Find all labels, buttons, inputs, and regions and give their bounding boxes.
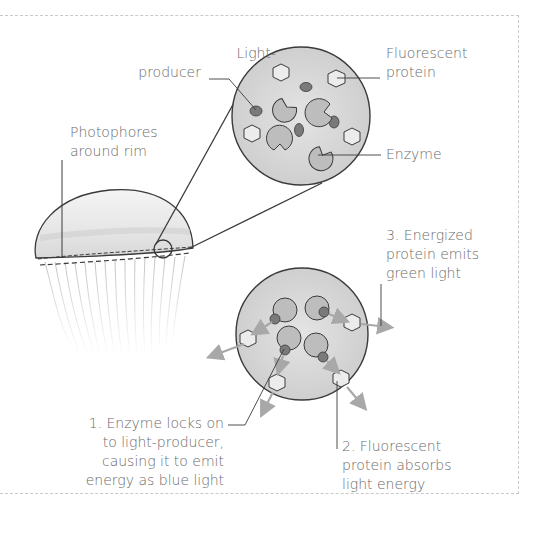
- label-line: to light-producer,: [40, 433, 224, 452]
- label-line: 2. Fluorescent: [342, 437, 451, 456]
- label-line: Fluorescent: [386, 44, 467, 63]
- label-step-3: 3. Energized protein emits green light: [386, 226, 479, 283]
- label-line: green light: [386, 264, 479, 283]
- label-line: Light-: [198, 44, 276, 63]
- label-line: producer: [123, 63, 201, 82]
- label-line: light energy: [342, 475, 451, 494]
- jellyfish-tentacles: [45, 256, 185, 355]
- label-line: protein absorbs: [342, 456, 451, 475]
- label-line: Photophores: [70, 123, 158, 142]
- label-step-1: 1. Enzyme locks on to light-producer, ca…: [40, 414, 224, 490]
- label-line: causing it to emit: [40, 452, 224, 471]
- label-line: 3. Energized: [386, 226, 479, 245]
- label-line: energy as blue light: [40, 471, 224, 490]
- label-light-producer: Light- producer: [198, 44, 276, 82]
- label-fluorescent-protein: Fluorescent protein: [386, 44, 467, 82]
- label-photophores: Photophores around rim: [70, 123, 158, 161]
- label-enzyme: Enzyme: [386, 145, 442, 164]
- bottom-magnified-disc: [212, 268, 388, 449]
- label-step-2: 2. Fluorescent protein absorbs light ene…: [342, 437, 451, 494]
- label-line: protein emits: [386, 245, 479, 264]
- label-line: around rim: [70, 142, 158, 161]
- label-line: protein: [386, 63, 467, 82]
- label-line: 1. Enzyme locks on: [40, 414, 224, 433]
- label-line: Enzyme: [386, 145, 442, 164]
- jellyfish-bell: [35, 190, 193, 265]
